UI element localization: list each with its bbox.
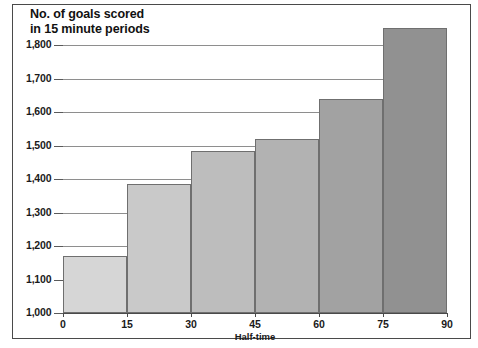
bar-60-75 [319,99,383,313]
y-tick-label-1100: 1,100 [26,273,59,285]
y-tick-label-1000: 1,000 [26,306,59,318]
bar-30-45 [191,151,255,313]
chart-figure: No. of goals scored in 15 minute periods… [0,0,478,348]
x-tick-mark-45 [255,313,256,317]
y-tick-label-1500: 1,500 [26,139,59,151]
x-tick-label-45: 45 [235,318,275,330]
x-tick-label-90: 90 [427,318,467,330]
x-tick-mark-15 [127,313,128,317]
bar-45-60 [255,139,319,313]
x-tick-label-30: 30 [171,318,211,330]
x-tick-label-60: 60 [299,318,339,330]
y-tick-label-1400: 1,400 [26,172,59,184]
x-tick-mark-75 [383,313,384,317]
x-tick-label-15: 15 [107,318,147,330]
x-tick-mark-90 [447,313,448,317]
x-tick-mark-30 [191,313,192,317]
plot-area: 1,0001,1001,2001,3001,4001,5001,6001,700… [0,0,478,348]
x-tick-label-0: 0 [43,318,83,330]
y-tick-label-1800: 1,800 [26,38,59,50]
y-tick-label-1700: 1,700 [26,72,59,84]
x-tick-label-75: 75 [363,318,403,330]
x-tick-mark-60 [319,313,320,317]
bar-0-15 [63,256,127,313]
half-time-annotation: Half-time [215,331,295,342]
y-tick-label-1200: 1,200 [26,239,59,251]
y-tick-label-1600: 1,600 [26,105,59,117]
x-tick-mark-0 [63,313,64,317]
bar-15-30 [127,184,191,313]
bar-75-90 [383,28,447,313]
y-tick-label-1300: 1,300 [26,206,59,218]
